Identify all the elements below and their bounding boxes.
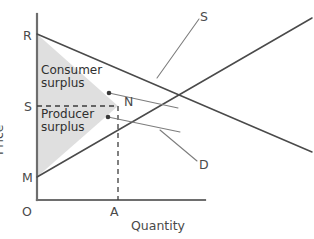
x-tick-label-a: A (110, 204, 119, 219)
demand-label-leader-line (160, 130, 197, 161)
consumer-surplus-label-line1: Consumer (41, 64, 102, 77)
equilibrium-point-label: N (124, 94, 133, 109)
producer-surplus-label-line1: Producer (41, 108, 94, 121)
producer-surplus-dot (106, 115, 111, 120)
demand-curve-label: D (199, 157, 209, 172)
consumer-surplus-dot (107, 91, 112, 96)
origin-label: O (22, 204, 32, 219)
producer-surplus-label-line2: surplus (41, 121, 94, 134)
annotation-leader-lines (108, 19, 199, 161)
consumer-surplus-leader-line (109, 93, 178, 108)
supply-curve-label: S (200, 9, 208, 24)
y-axis-title: Price (0, 125, 6, 156)
y-tick-label-s: S (24, 99, 32, 114)
consumer-surplus-label-line2: surplus (41, 77, 102, 90)
y-tick-label-r: R (23, 28, 32, 43)
supply-label-leader-line (157, 19, 199, 78)
supply-demand-surplus-diagram: Price R S M O A Quantity N S D Consumer … (0, 0, 314, 239)
y-tick-label-m: M (22, 170, 33, 185)
consumer-surplus-label: Consumer surplus (41, 64, 102, 91)
x-axis-title: Quantity (131, 218, 185, 233)
producer-surplus-label: Producer surplus (41, 108, 94, 135)
